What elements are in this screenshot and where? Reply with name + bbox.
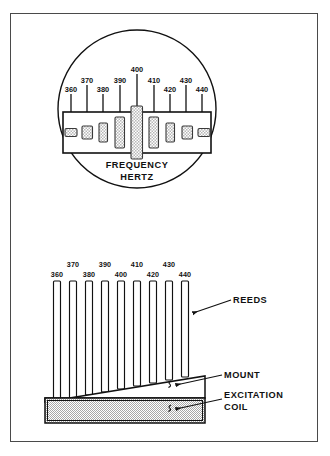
reed-400	[118, 281, 125, 389]
scale-label-420: 420	[164, 85, 177, 94]
scale-label-360: 360	[65, 85, 78, 94]
reed-band-360	[65, 129, 77, 137]
scale-label-390: 390	[114, 76, 127, 85]
reed-390	[102, 281, 109, 392]
reed-assembly: 360 370 380 390 400 410 420 430 440	[45, 260, 283, 423]
assembly-label-380: 380	[83, 270, 95, 279]
assembly-label-430: 430	[163, 260, 175, 269]
reed-410	[134, 281, 141, 386]
scale-label-400: 400	[131, 65, 144, 74]
assembly-label-440: 440	[179, 270, 191, 279]
reed-440	[182, 281, 189, 377]
reed-band-370	[82, 126, 93, 139]
assembly-label-370: 370	[67, 260, 79, 269]
assembly-label-420: 420	[147, 270, 159, 279]
meter-dial: 360 370 380 390 400 410 420 430 440	[58, 30, 216, 188]
reed-360	[54, 281, 61, 401]
meter-caption-line2: HERTZ	[120, 172, 153, 182]
figure-root: 360 370 380 390 400 410 420 430 440	[0, 0, 330, 456]
assembly-label-360: 360	[51, 270, 63, 279]
assembly-label-400: 400	[115, 270, 127, 279]
reed-420	[150, 281, 157, 383]
figure-canvas: 360 370 380 390 400 410 420 430 440	[0, 0, 330, 456]
scale-label-440: 440	[196, 85, 209, 94]
reed-430	[166, 281, 173, 380]
scale-label-380: 380	[97, 85, 110, 94]
reed-band-400	[131, 106, 143, 159]
callout-mount: MOUNT	[224, 370, 260, 380]
assembly-reed-labels: 360 370 380 390 400 410 420 430 440	[51, 260, 191, 279]
callout-reeds: REEDS	[233, 295, 267, 305]
assembly-label-410: 410	[131, 260, 143, 269]
scale-label-370: 370	[81, 76, 94, 85]
excitation-coil-block	[45, 398, 205, 423]
meter-caption-line1: FREQUENCY	[106, 160, 169, 170]
reed-band-420	[166, 123, 175, 142]
scale-label-410: 410	[148, 76, 161, 85]
assembly-label-390: 390	[99, 260, 111, 269]
reed-band-440	[198, 129, 210, 137]
reed-370	[70, 281, 77, 398]
reed-band-380	[99, 123, 108, 142]
callout-labels: REEDS MOUNT EXCITATION COIL	[224, 295, 283, 412]
reed-band-390	[115, 117, 125, 148]
reed-band-430	[182, 126, 193, 139]
callout-coil-line2: COIL	[224, 402, 248, 412]
scale-label-430: 430	[180, 76, 193, 85]
reed-band-410	[149, 117, 159, 148]
callout-coil-line1: EXCITATION	[224, 390, 283, 400]
reed-380	[86, 281, 93, 395]
leader-reeds	[193, 300, 231, 313]
